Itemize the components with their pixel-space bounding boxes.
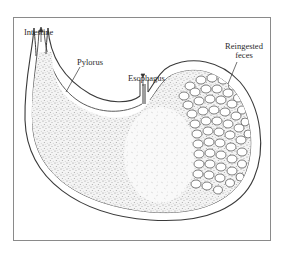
fresh-food-region [124,107,196,203]
pylorus-leader [66,67,80,92]
label-pylorus: Pylorus [77,58,103,67]
label-reingested-feces: Reingested feces [220,42,268,60]
stomach-illustration [0,0,288,255]
esophagus-tube [140,80,148,104]
label-intestine: Intestine [24,28,53,37]
label-feces-line2: feces [220,51,268,60]
diagram-figure: Intestine Pylorus Esophagus Reingested f… [0,0,288,255]
label-esophagus: Esophagus [128,74,165,83]
